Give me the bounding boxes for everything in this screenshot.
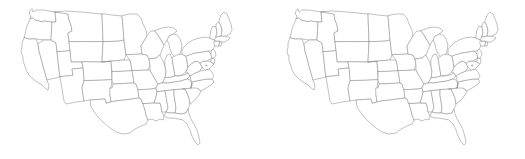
state-WY[interactable] [69,42,103,62]
state-ND[interactable] [368,14,390,42]
state-DC[interactable] [472,65,473,66]
state-SD[interactable] [368,40,392,62]
map-panel-right[interactable] [266,0,525,159]
page-root [0,0,525,159]
us-map-right[interactable] [266,0,525,159]
state-TX[interactable] [356,98,414,134]
state-OH[interactable] [438,54,454,76]
state-MI-lower[interactable] [433,34,448,57]
state-OR[interactable] [24,18,52,40]
state-MI-lower[interactable] [167,34,182,57]
state-outlines-group-right [287,9,498,145]
state-TX[interactable] [90,98,148,134]
state-OR[interactable] [290,18,318,40]
map-panel-left[interactable] [0,0,262,159]
state-OH[interactable] [172,54,188,76]
state-CO[interactable] [82,61,112,81]
us-map-left[interactable] [0,0,262,159]
state-outlines-group-left [21,9,232,145]
state-CO[interactable] [348,61,378,81]
state-WY[interactable] [335,42,369,62]
state-DC[interactable] [206,65,207,66]
state-ND[interactable] [102,14,124,42]
state-FL[interactable] [164,109,200,145]
state-KS[interactable] [378,71,400,84]
state-KS[interactable] [112,71,134,84]
state-FL[interactable] [430,109,466,145]
state-SD[interactable] [102,40,126,62]
